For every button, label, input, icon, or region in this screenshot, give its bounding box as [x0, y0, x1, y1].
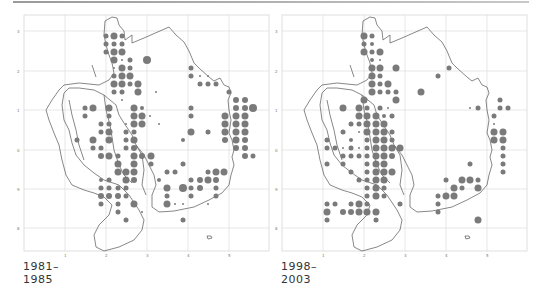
plot-frame	[24, 15, 269, 251]
occurrence-dot	[189, 106, 194, 111]
occurrence-dot	[233, 121, 240, 128]
occurrence-dot	[124, 138, 129, 143]
occurrence-dot	[378, 106, 383, 111]
occurrence-dot	[179, 184, 187, 192]
occurrence-dot	[124, 194, 129, 199]
occurrence-dot	[451, 193, 458, 200]
occurrence-dot	[222, 121, 229, 128]
occurrence-dot	[365, 106, 370, 111]
occurrence-dot	[386, 90, 391, 95]
occurrence-dot	[349, 170, 354, 175]
occurrence-dot	[349, 122, 354, 127]
occurrence-dot	[369, 89, 376, 96]
occurrence-dot	[387, 107, 389, 109]
occurrence-dot	[358, 131, 360, 133]
occurrence-dot	[121, 99, 123, 101]
occurrence-dot	[370, 50, 375, 55]
occurrence-dot	[373, 169, 380, 176]
occurrence-dot	[174, 203, 176, 205]
occurrence-dot	[324, 209, 331, 216]
occurrence-dot	[104, 50, 109, 55]
occurrence-dot	[381, 161, 388, 168]
occurrence-dot	[139, 153, 145, 159]
map-svg: 3 2 1 0 9 8 1 2 3 4 5	[0, 0, 272, 289]
occurrence-dot	[373, 129, 380, 136]
occurrence-dot	[106, 193, 112, 199]
occurrence-dot	[358, 147, 360, 149]
occurrence-dot	[369, 73, 376, 80]
svg-text:4: 4	[445, 253, 448, 258]
svg-text:1: 1	[17, 108, 20, 113]
occurrence-dot	[189, 114, 194, 119]
occurrence-dot	[188, 129, 195, 136]
occurrence-dot	[128, 66, 133, 71]
occurrence-dot	[116, 186, 121, 191]
occurrence-dot	[475, 185, 482, 192]
occurrence-dot	[341, 162, 346, 167]
occurrence-dot	[361, 33, 368, 40]
occurrence-dot	[157, 178, 161, 182]
occurrence-dot	[333, 146, 338, 151]
occurrence-dot	[128, 82, 133, 87]
occurrence-dot	[460, 186, 465, 191]
occurrence-dot	[112, 90, 117, 95]
occurrence-dot	[158, 123, 160, 125]
occurrence-dot	[189, 186, 194, 191]
occurrence-dot	[181, 218, 186, 223]
occurrence-dot	[325, 218, 330, 223]
occurrence-dot	[370, 42, 374, 46]
occurrence-dot	[131, 121, 138, 128]
occurrence-dot	[115, 169, 122, 176]
occurrence-dot	[389, 169, 396, 176]
occurrence-dot	[214, 82, 219, 87]
svg-text:1: 1	[275, 108, 278, 113]
occurrence-dot	[501, 162, 506, 167]
occurrence-dot	[365, 170, 370, 175]
occurrence-dot	[119, 73, 126, 80]
occurrence-dot	[106, 153, 113, 160]
occurrence-dot	[222, 113, 229, 120]
occurrence-dot	[393, 97, 400, 104]
occurrence-dot	[131, 105, 138, 112]
occurrence-dot	[377, 49, 384, 56]
svg-text:3: 3	[404, 253, 407, 258]
map-svg: 3 2 1 0 9 8 1 2 3 4 5	[258, 0, 543, 289]
occurrence-dot	[99, 178, 103, 182]
occurrence-dot	[124, 146, 129, 151]
occurrence-dot	[373, 121, 380, 128]
occurrence-dot	[394, 90, 399, 95]
occurrence-dot	[149, 115, 151, 117]
occurrence-dot	[506, 106, 511, 111]
occurrence-dot	[75, 138, 80, 143]
occurrence-dot	[381, 177, 388, 184]
occurrence-dot	[373, 153, 380, 160]
occurrence-dot	[498, 106, 503, 111]
occurrence-dot	[325, 146, 330, 151]
occurrence-dot	[197, 177, 203, 183]
svg-text:0: 0	[17, 148, 20, 153]
occurrence-dot	[389, 145, 396, 152]
occurrence-dot	[106, 129, 113, 136]
occurrence-dot	[349, 154, 354, 159]
occurrence-dot	[140, 106, 144, 110]
occurrence-dot	[98, 153, 104, 159]
occurrence-dot	[119, 65, 126, 72]
occurrence-dot	[393, 65, 400, 72]
occurrence-dot	[364, 129, 371, 136]
occurrence-dot	[398, 202, 403, 207]
occurrence-dot	[459, 177, 466, 184]
occurrence-dot	[251, 154, 256, 159]
occurrence-dot	[131, 201, 138, 208]
occurrence-dot	[467, 177, 474, 184]
occurrence-dot	[361, 49, 368, 56]
occurrence-dot	[356, 105, 363, 112]
occurrence-dot	[111, 33, 118, 40]
occurrence-dot	[181, 138, 185, 142]
occurrence-dot	[135, 89, 142, 96]
occurrence-dot	[233, 137, 240, 144]
occurrence-dot	[189, 194, 194, 199]
occurrence-dot	[115, 161, 122, 168]
occurrence-dot	[213, 177, 219, 183]
occurrence-dot	[207, 75, 209, 77]
occurrence-dot	[377, 65, 384, 72]
